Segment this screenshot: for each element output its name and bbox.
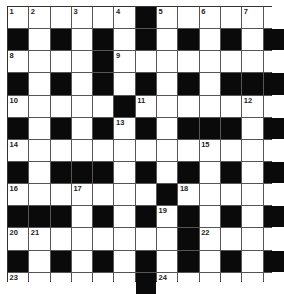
crossword-cell[interactable] [200,29,220,50]
crossword-cell[interactable] [29,118,49,139]
crossword-cell[interactable] [72,251,92,272]
crossword-cell[interactable]: 18 [178,184,198,205]
crossword-cell[interactable] [29,140,49,161]
crossword-cell[interactable] [264,96,284,117]
crossword-cell[interactable] [178,273,198,294]
crossword-cell[interactable] [157,162,177,183]
crossword-cell[interactable]: 4 [114,7,134,28]
crossword-cell[interactable] [51,51,71,72]
crossword-cell[interactable]: 20 [8,228,28,249]
crossword-cell[interactable] [221,228,241,249]
crossword-cell[interactable] [114,206,134,227]
crossword-cell[interactable] [72,206,92,227]
crossword-cell[interactable] [200,184,220,205]
crossword-cell[interactable] [29,273,49,294]
crossword-cell[interactable] [242,162,262,183]
crossword-cell[interactable] [178,96,198,117]
crossword-cell[interactable] [72,228,92,249]
crossword-cell[interactable] [178,7,198,28]
crossword-cell[interactable] [51,7,71,28]
crossword-cell[interactable] [200,96,220,117]
crossword-cell[interactable]: 24 [157,273,177,294]
crossword-cell[interactable] [136,51,156,72]
crossword-cell[interactable] [242,206,262,227]
crossword-cell[interactable] [29,73,49,94]
crossword-cell[interactable]: 11 [136,96,156,117]
crossword-cell[interactable] [242,251,262,272]
crossword-cell[interactable] [242,184,262,205]
crossword-cell[interactable] [178,51,198,72]
crossword-cell[interactable] [72,96,92,117]
crossword-cell[interactable] [264,228,284,249]
crossword-cell[interactable] [114,140,134,161]
crossword-cell[interactable] [29,251,49,272]
crossword-cell[interactable]: 1 [8,7,28,28]
crossword-cell[interactable] [136,140,156,161]
crossword-cell[interactable] [51,273,71,294]
crossword-cell[interactable] [93,228,113,249]
crossword-cell[interactable] [264,7,284,28]
crossword-cell[interactable] [200,206,220,227]
crossword-cell[interactable]: 23 [8,273,28,294]
crossword-cell[interactable]: 9 [114,51,134,72]
crossword-cell[interactable] [157,51,177,72]
crossword-cell[interactable] [114,273,134,294]
crossword-cell[interactable] [157,140,177,161]
crossword-cell[interactable] [29,51,49,72]
crossword-cell[interactable] [221,273,241,294]
crossword-cell[interactable] [264,140,284,161]
crossword-cell[interactable] [242,228,262,249]
crossword-cell[interactable]: 13 [114,118,134,139]
crossword-cell[interactable] [221,140,241,161]
crossword-cell[interactable] [72,118,92,139]
crossword-cell[interactable] [51,228,71,249]
crossword-cell[interactable] [157,118,177,139]
crossword-cell[interactable]: 16 [8,184,28,205]
crossword-cell[interactable] [178,140,198,161]
crossword-cell[interactable] [114,184,134,205]
crossword-cell[interactable] [264,184,284,205]
crossword-cell[interactable]: 8 [8,51,28,72]
crossword-cell[interactable] [93,273,113,294]
crossword-cell[interactable] [72,140,92,161]
crossword-cell[interactable]: 7 [242,7,262,28]
crossword-cell[interactable] [51,184,71,205]
crossword-cell[interactable] [114,162,134,183]
crossword-cell[interactable] [136,184,156,205]
crossword-cell[interactable] [157,29,177,50]
crossword-cell[interactable] [29,96,49,117]
crossword-cell[interactable]: 19 [157,206,177,227]
crossword-cell[interactable]: 15 [200,140,220,161]
crossword-cell[interactable] [72,73,92,94]
crossword-cell[interactable] [51,96,71,117]
crossword-cell[interactable] [51,140,71,161]
crossword-cell[interactable] [114,73,134,94]
crossword-cell[interactable] [157,228,177,249]
crossword-cell[interactable] [242,140,262,161]
crossword-cell[interactable] [200,162,220,183]
crossword-cell[interactable] [264,273,284,294]
crossword-cell[interactable] [114,228,134,249]
crossword-cell[interactable] [200,51,220,72]
crossword-cell[interactable] [29,184,49,205]
crossword-cell[interactable] [200,251,220,272]
crossword-cell[interactable] [242,273,262,294]
crossword-cell[interactable]: 2 [29,7,49,28]
crossword-cell[interactable] [200,73,220,94]
crossword-cell[interactable] [200,273,220,294]
crossword-cell[interactable] [93,96,113,117]
crossword-cell[interactable] [136,228,156,249]
crossword-cell[interactable] [157,73,177,94]
crossword-cell[interactable]: 21 [29,228,49,249]
crossword-cell[interactable] [29,162,49,183]
crossword-cell[interactable] [72,273,92,294]
crossword-cell[interactable] [157,96,177,117]
crossword-cell[interactable] [93,140,113,161]
crossword-cell[interactable] [242,51,262,72]
crossword-cell[interactable] [221,96,241,117]
crossword-cell[interactable] [242,29,262,50]
crossword-cell[interactable]: 17 [72,184,92,205]
crossword-cell[interactable] [114,29,134,50]
crossword-cell[interactable] [72,29,92,50]
crossword-cell[interactable]: 22 [200,228,220,249]
